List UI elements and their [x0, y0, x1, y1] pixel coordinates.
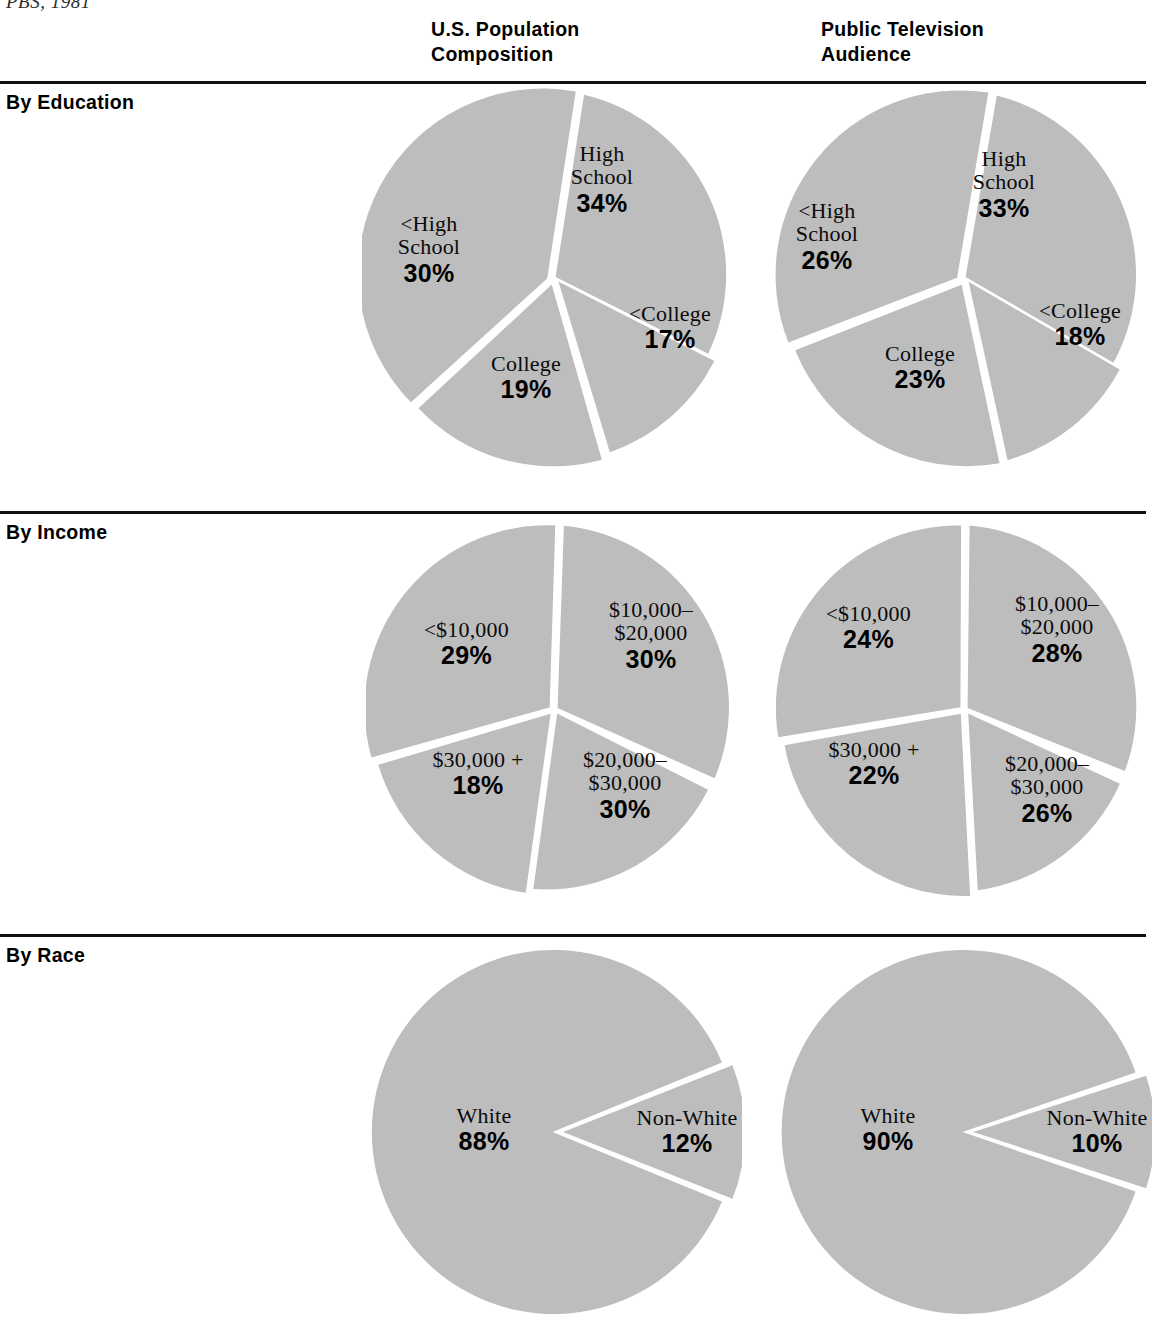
- pie-chart-education-us-population: High School 34% <College 17% College 19%…: [362, 87, 742, 467]
- pie-chart-income-public-television: $10,000– $20,000 28% $20,000– $30,000 26…: [776, 520, 1152, 896]
- pie-chart-race-public-television: White 90% Non-White 10%: [780, 946, 1152, 1318]
- column-header-us-population: U.S. Population Composition: [431, 17, 580, 67]
- pie-svg-race-public-television: [780, 946, 1152, 1318]
- pie-svg-education-public-television: [772, 87, 1152, 467]
- pie-chart-race-us-population: White 88% Non-White 12%: [370, 946, 742, 1318]
- pie-slice-30000-plus: [785, 714, 970, 896]
- pie-slices: [366, 525, 729, 893]
- pie-slice-under-10000: [776, 525, 961, 737]
- pie-chart-education-public-television: High School 33% <College 18% College 23%…: [772, 87, 1152, 467]
- divider-rule-education: [0, 81, 1146, 84]
- column-header-public-television: Public Television Audience: [821, 17, 984, 67]
- pie-svg-income-us-population: [366, 520, 742, 896]
- pie-chart-income-us-population: $10,000– $20,000 30% $20,000– $30,000 30…: [366, 520, 742, 896]
- divider-rule-race: [0, 934, 1146, 937]
- section-label-by-race: By Race: [6, 944, 85, 967]
- source-credit: PBS, 1981: [6, 0, 91, 13]
- pie-slices: [776, 525, 1136, 896]
- divider-rule-income: [0, 511, 1146, 514]
- pie-slices: [372, 950, 742, 1314]
- pie-slices: [362, 89, 726, 467]
- pie-slices: [782, 950, 1152, 1314]
- pie-slices: [776, 90, 1136, 466]
- pie-svg-education-us-population: [362, 87, 742, 467]
- section-label-by-income: By Income: [6, 521, 107, 544]
- pie-svg-race-us-population: [370, 946, 742, 1318]
- section-label-by-education: By Education: [6, 91, 134, 114]
- pie-svg-income-public-television: [776, 520, 1152, 896]
